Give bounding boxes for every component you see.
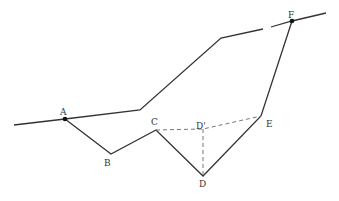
label-e: E — [266, 119, 273, 129]
upper-line — [14, 29, 263, 125]
label-b: B — [104, 158, 111, 168]
label-d-prime: D' — [196, 121, 206, 131]
point-a-dot — [63, 117, 68, 122]
lower-route-line — [65, 21, 292, 176]
upper-line-segment-2 — [271, 13, 326, 27]
label-f: F — [288, 10, 294, 20]
dashed-line-c-dprime-e — [156, 116, 261, 130]
label-c: C — [151, 117, 158, 127]
label-a: A — [59, 107, 67, 117]
diagram-canvas: A B C D' D E F — [0, 0, 339, 201]
label-d: D — [199, 179, 206, 189]
